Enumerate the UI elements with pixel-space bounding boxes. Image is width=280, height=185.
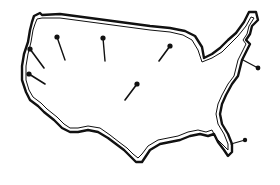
- pin-7: [243, 60, 260, 70]
- us-outline-map: [0, 0, 280, 185]
- us-map-illustration: [0, 0, 280, 185]
- pin-8: [231, 138, 247, 144]
- us-outline-inner: [26, 17, 254, 158]
- pin-6: [125, 81, 140, 100]
- pin-1: [27, 46, 44, 68]
- pin-5: [159, 43, 173, 61]
- pin-3: [54, 34, 65, 60]
- pin-2: [26, 71, 45, 84]
- pin-4: [100, 35, 105, 61]
